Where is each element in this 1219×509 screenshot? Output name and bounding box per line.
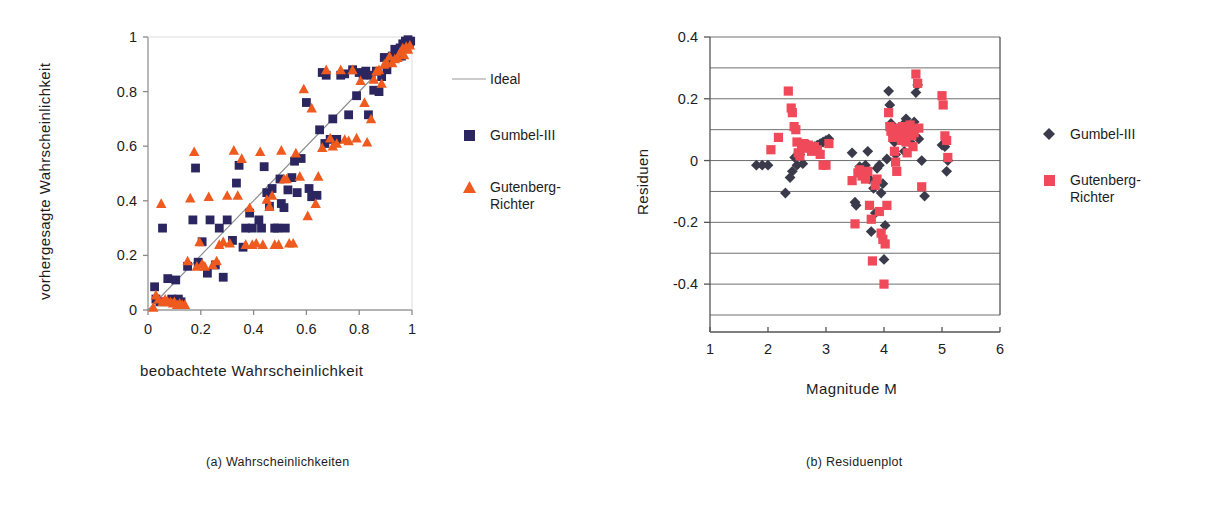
y-axis-title-b: Residuen [634, 148, 651, 215]
legend-a: Ideal Gumbel-III Gutenberg- Richter [448, 70, 561, 238]
svg-text:6: 6 [996, 341, 1004, 357]
svg-text:0.6: 0.6 [296, 321, 316, 337]
square-marker-icon [448, 126, 490, 144]
caption-b: (b) Residuenplot [806, 455, 903, 469]
legend-item-gutenberg-richter[interactable]: Gutenberg- Richter [448, 178, 561, 212]
legend-label-gutenberg-richter: Gutenberg- Richter [490, 178, 561, 212]
figure-container: 00.20.40.60.8100.20.40.60.81 vorhergesag… [0, 0, 1219, 509]
svg-text:0.8: 0.8 [117, 84, 137, 100]
square-marker-icon-b [1028, 171, 1070, 189]
legend-label-gumbel-iii-b: Gumbel-III [1070, 125, 1135, 143]
x-axis-title-b: Magnitude M [806, 380, 897, 397]
svg-text:0: 0 [144, 321, 152, 337]
svg-text:1: 1 [129, 29, 137, 45]
svg-text:1: 1 [408, 321, 416, 337]
legend-b: Gumbel-III Gutenberg- Richter [1028, 125, 1141, 231]
svg-text:0.4: 0.4 [117, 193, 137, 209]
svg-text:0: 0 [690, 153, 698, 169]
svg-text:2: 2 [764, 341, 772, 357]
svg-text:0.2: 0.2 [678, 91, 698, 107]
y-axis-title-a: vorhergesagte Wahrscheinlichkeit [36, 63, 53, 300]
legend-label-gutenberg-richter-b: Gutenberg- Richter [1070, 171, 1141, 205]
svg-text:0: 0 [129, 302, 137, 318]
caption-a: (a) Wahrscheinlichkeiten [206, 455, 350, 469]
legend-label-ideal: Ideal [490, 70, 520, 88]
svg-text:0.6: 0.6 [117, 138, 137, 154]
ideal-line-icon [448, 70, 490, 88]
svg-text:3: 3 [822, 341, 830, 357]
panel-wahrscheinlichkeiten: 00.20.40.60.8100.20.40.60.81 vorhergesag… [0, 0, 610, 509]
svg-text:0.8: 0.8 [349, 321, 369, 337]
svg-text:0.2: 0.2 [117, 247, 137, 263]
legend-item-ideal[interactable]: Ideal [448, 70, 561, 88]
triangle-marker-icon [448, 178, 490, 196]
legend-label-gumbel-iii: Gumbel-III [490, 126, 555, 144]
diamond-marker-icon [1028, 125, 1070, 143]
x-axis-title-a: beobachtete Wahrscheinlichkeit [140, 362, 363, 379]
svg-text:0.2: 0.2 [191, 321, 211, 337]
svg-text:0.4: 0.4 [678, 29, 698, 45]
svg-text:-0.2: -0.2 [673, 214, 698, 230]
svg-text:-0.4: -0.4 [673, 276, 698, 292]
legend-item-gumbel-iii-b[interactable]: Gumbel-III [1028, 125, 1141, 143]
svg-text:1: 1 [706, 341, 714, 357]
svg-text:5: 5 [938, 341, 946, 357]
legend-item-gutenberg-richter-b[interactable]: Gutenberg- Richter [1028, 171, 1141, 205]
svg-text:0.4: 0.4 [244, 321, 264, 337]
panel-residuenplot: 0.40.20-0.2-0.4123456 Residuen Magnitude… [610, 0, 1219, 509]
svg-text:4: 4 [880, 341, 888, 357]
legend-item-gumbel-iii[interactable]: Gumbel-III [448, 126, 561, 144]
